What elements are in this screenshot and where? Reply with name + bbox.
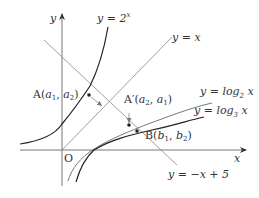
line-label: y = −x + 5 xyxy=(167,168,229,181)
y-axis-label: y xyxy=(49,12,57,25)
point-b xyxy=(135,129,139,133)
origin-label: O xyxy=(64,152,73,165)
point-a-prime-label: A′(a2, a1) xyxy=(123,93,172,107)
exp2-label: y = 2x xyxy=(96,11,130,25)
point-a xyxy=(87,93,91,97)
log3-label: y = log3 x xyxy=(193,104,249,119)
point-a-prime xyxy=(127,123,131,127)
log2-label: y = log2 x xyxy=(199,85,255,100)
identity-label: y = x xyxy=(171,31,201,44)
exp2-curve xyxy=(20,27,108,144)
point-b-label: B(b1, b2) xyxy=(145,129,192,143)
math-diagram: y x O y = 2x y = x y = log2 x y = log3 x… xyxy=(0,0,259,198)
point-a-label: A(a1, a2) xyxy=(32,88,79,102)
x-axis-label: x xyxy=(234,152,241,165)
reflection-arrow-a xyxy=(91,97,102,106)
